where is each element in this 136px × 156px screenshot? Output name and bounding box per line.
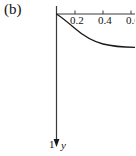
x-tick-label-1: 0.4 [98,15,112,26]
y-axis-end-tick-label: 1 [49,139,55,150]
figure-panel-b: (b) 0.2 0.4 0.6 1 y [0,0,135,156]
y-axis-name-label: y [61,140,66,151]
x-tick-label-0: 0.2 [70,15,84,26]
x-tick-label-2: 0.6 [126,15,135,26]
plot-canvas [0,0,135,156]
data-curve [57,14,136,47]
